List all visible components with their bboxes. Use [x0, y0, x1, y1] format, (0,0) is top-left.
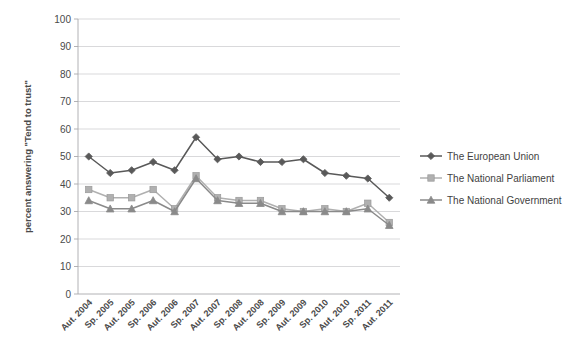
legend-marker-2: [428, 175, 434, 181]
series-3: [85, 175, 393, 229]
y-tick-label: 10: [60, 261, 72, 272]
data-point: [128, 195, 134, 201]
y-tick-label: 100: [54, 14, 71, 25]
y-tick-label: 70: [60, 96, 72, 107]
data-point: [343, 172, 350, 179]
data-point: [128, 167, 135, 174]
y-tick-label: 60: [60, 124, 72, 135]
legend-label-2: The National Parliament: [447, 173, 554, 184]
y-axis-title: percent answering "Tend to trust": [22, 80, 33, 233]
data-point: [257, 158, 264, 165]
chart-legend: The European UnionThe National Parliamen…: [420, 151, 562, 206]
y-tick-label: 40: [60, 179, 72, 190]
trust-line-chart: 0102030405060708090100percent answering …: [0, 0, 588, 355]
data-point: [85, 197, 93, 204]
legend-marker-1: [427, 152, 434, 159]
gridlines: [78, 19, 400, 267]
data-point: [150, 158, 157, 165]
data-point: [86, 186, 92, 192]
data-point: [150, 186, 156, 192]
data-point: [107, 195, 113, 201]
y-tick-label: 0: [65, 289, 71, 300]
y-tick-label: 80: [60, 69, 72, 80]
y-tick-label: 30: [60, 206, 72, 217]
series-1: [85, 134, 393, 202]
legend-label-3: The National Government: [447, 195, 562, 206]
y-tick-label: 50: [60, 151, 72, 162]
data-point: [321, 169, 328, 176]
y-tick-label: 90: [60, 41, 72, 52]
y-tick-label: 20: [60, 234, 72, 245]
y-tick-labels: 0102030405060708090100: [54, 14, 71, 300]
series-line: [89, 137, 390, 198]
data-point: [149, 197, 157, 204]
x-tick-labels: Aut. 2004Sp. 2005Aut. 2005Sp. 2006Aut. 2…: [59, 297, 395, 332]
data-point: [278, 158, 285, 165]
data-point: [235, 153, 242, 160]
legend-label-1: The European Union: [447, 151, 539, 162]
chart-figure: 0102030405060708090100percent answering …: [0, 0, 588, 355]
